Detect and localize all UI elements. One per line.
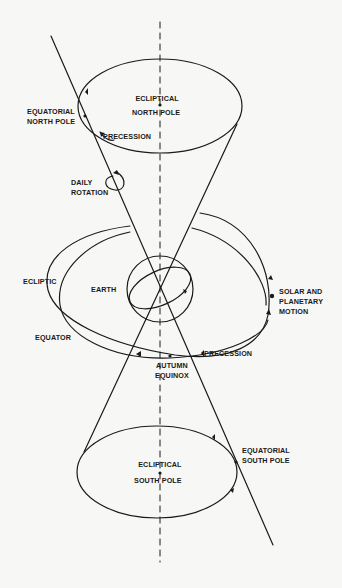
ecliptical-north-pole-label: ECLIPTICAL NORTH POLE bbox=[134, 94, 180, 118]
daily-rotation-label: DAILY ROTATION bbox=[71, 178, 108, 198]
ecliptic-label: ECLIPTIC bbox=[23, 277, 57, 287]
label-line: NORTH POLE bbox=[132, 108, 180, 118]
equatorial-south-pole-dot bbox=[234, 460, 237, 463]
label-line: DAILY bbox=[71, 178, 108, 188]
arrow-top-ellipse bbox=[85, 88, 88, 95]
label-line: ECLIPTICAL bbox=[138, 460, 182, 470]
precession-mid-label: PRECESSION bbox=[204, 349, 252, 359]
arrow-solar-lower bbox=[266, 309, 271, 315]
ecliptical-south-pole-label: ECLIPTICAL SOUTH POLE bbox=[138, 460, 182, 486]
label-line: AUTUMN bbox=[155, 361, 189, 371]
precession-top-label: PRECESSION bbox=[103, 132, 151, 142]
label-line: SOLAR AND bbox=[279, 287, 323, 297]
solar-planetary-motion-label: SOLAR AND PLANETARY MOTION bbox=[279, 287, 323, 317]
precession-diagram: ECLIPTICAL NORTH POLE EQUATORIAL NORTH P… bbox=[0, 0, 342, 588]
label-line: SOUTH POLE bbox=[242, 456, 290, 466]
label-line: PLANETARY bbox=[279, 297, 323, 307]
label-line: NORTH POLE bbox=[27, 117, 75, 127]
equator-orbit-back bbox=[192, 228, 266, 305]
label-line: EQUATORIAL bbox=[242, 446, 290, 456]
sun-dot bbox=[270, 294, 274, 298]
equatorial-south-pole-label: EQUATORIAL SOUTH POLE bbox=[242, 446, 290, 466]
equatorial-north-pole-dot bbox=[83, 114, 86, 117]
equator-label: EQUATOR bbox=[35, 333, 71, 343]
label-line: EQUATORIAL bbox=[27, 107, 75, 117]
label-line: EQUINOX bbox=[155, 371, 189, 381]
equatorial-north-pole-label: EQUATORIAL NORTH POLE bbox=[27, 107, 75, 127]
label-line: SOUTH POLE bbox=[134, 476, 182, 486]
label-line: ROTATION bbox=[71, 188, 108, 198]
autumn-equinox-label: AUTUMN EQUINOX bbox=[155, 361, 189, 381]
label-line: ECLIPTICAL bbox=[134, 94, 180, 104]
autumn-equinox-dot bbox=[168, 354, 171, 357]
arrow-solar-upper bbox=[268, 275, 273, 280]
label-line: MOTION bbox=[279, 307, 323, 317]
earth-label: EARTH bbox=[91, 285, 116, 295]
